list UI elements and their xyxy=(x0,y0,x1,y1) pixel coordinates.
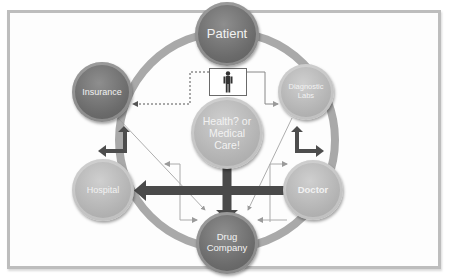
node-doctor: Doctor xyxy=(283,160,343,220)
node-drug-company-label: Drug Company xyxy=(207,232,248,254)
node-center-label: Health? or Medical Care! xyxy=(203,115,251,151)
node-patient: Patient xyxy=(195,2,259,66)
node-doctor-label: Doctor xyxy=(298,185,329,196)
node-drug-company: Drug Company xyxy=(196,212,258,274)
node-center-health: Health? or Medical Care! xyxy=(191,97,263,169)
l-arrow-labs-doctor xyxy=(291,126,324,157)
patient-figure-box xyxy=(209,68,247,96)
node-diagnostic-labs-label: Diagnostic Labs xyxy=(288,83,323,100)
node-patient-label: Patient xyxy=(207,27,247,42)
human-figure-icon xyxy=(223,71,233,93)
node-hospital-label: Hospital xyxy=(87,185,120,195)
l-arrow-insurance-hospital xyxy=(98,126,130,157)
node-hospital: Hospital xyxy=(72,159,134,221)
node-insurance: Insurance xyxy=(72,62,132,122)
node-diagnostic-labs: Diagnostic Labs xyxy=(278,64,334,120)
connector-labs xyxy=(245,72,278,104)
node-insurance-label: Insurance xyxy=(82,87,122,97)
